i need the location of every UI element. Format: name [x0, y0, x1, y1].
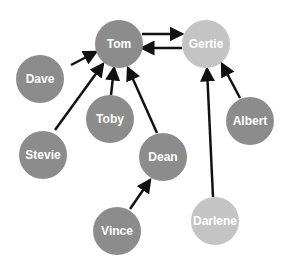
node-vince: Vince — [93, 207, 141, 255]
node-dave: Dave — [16, 55, 64, 103]
node-tom: Tom — [95, 20, 143, 68]
edge-vince-to-dean — [130, 180, 150, 209]
node-label: Tom — [107, 37, 131, 51]
node-label: Toby — [96, 112, 124, 126]
node-darlene: Darlene — [191, 197, 239, 245]
edge-dave-to-tom — [71, 52, 96, 65]
node-label: Vince — [101, 224, 133, 238]
node-dean: Dean — [139, 133, 187, 181]
edge-darlene-to-gertie — [207, 69, 213, 197]
graph-diagram: TomGertieDaveTobyAlbertStevieDeanVinceDa… — [0, 0, 287, 265]
node-stevie: Stevie — [19, 131, 67, 179]
edge-albert-to-gertie — [222, 64, 240, 98]
node-gertie: Gertie — [182, 20, 230, 68]
node-albert: Albert — [226, 97, 274, 145]
node-label: Stevie — [25, 148, 60, 162]
node-label: Gertie — [189, 37, 224, 51]
node-label: Dean — [148, 150, 177, 164]
node-label: Albert — [233, 114, 268, 128]
node-toby: Toby — [86, 95, 134, 143]
node-label: Dave — [26, 72, 55, 86]
node-label: Darlene — [193, 214, 237, 228]
edge-toby-to-tom — [111, 68, 114, 95]
